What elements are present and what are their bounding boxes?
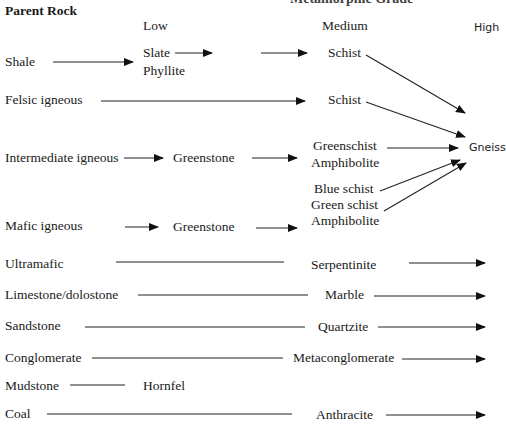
rock-hornfel: Hornfel [143,378,185,393]
arrow-blueschist-to-gneiss [380,160,460,191]
rock-serpentinite: Serpentinite [311,257,376,272]
grade-medium-header: Medium [322,18,368,33]
rock-anthracite: Anthracite [316,407,373,422]
grade-low-header: Low [143,18,168,33]
rock-slate: Slate [143,45,170,60]
rock-ultramafic: Ultramafic [5,256,63,271]
rock-amphibolite-mafic: Amphibolite [311,213,379,228]
rock-mudstone: Mudstone [5,378,59,393]
grade-high-header: High [474,20,499,35]
rock-mafic-igneous: Mafic igneous [5,218,83,233]
rock-greenschist: Greenschist [313,138,377,153]
rock-phyllite: Phyllite [143,63,185,78]
arrow-schist2-to-gneiss [366,102,465,137]
rock-coal: Coal [5,406,31,421]
parent-rock-header: Parent Rock [5,3,77,18]
rock-greenstone-mafic: Greenstone [173,219,234,234]
arrow-greenschist2-to-gneiss [384,163,466,211]
rock-schist-felsic: Schist [328,92,361,107]
rock-blue-schist: Blue schist [314,181,374,196]
rock-shale: Shale [5,54,35,69]
arrow-schist-to-gneiss [366,55,465,113]
rock-metaconglomerate: Metaconglomerate [293,350,394,365]
rock-greenstone-intermediate: Greenstone [173,150,234,165]
rock-schist: Schist [328,45,361,60]
rock-gneiss: Gneiss [469,140,506,155]
rock-felsic-igneous: Felsic igneous [5,92,83,107]
rock-limestone-dolostone: Limestone/dolostone [5,287,118,302]
rock-green-schist: Green schist [311,197,378,212]
rock-quartzite: Quartzite [318,319,368,334]
rock-sandstone: Sandstone [5,318,61,333]
rock-conglomerate: Conglomerate [5,350,81,365]
rock-amphibolite-intermediate: Amphibolite [311,155,379,170]
rock-intermediate-igneous: Intermediate igneous [5,150,119,165]
rock-marble: Marble [325,287,364,302]
